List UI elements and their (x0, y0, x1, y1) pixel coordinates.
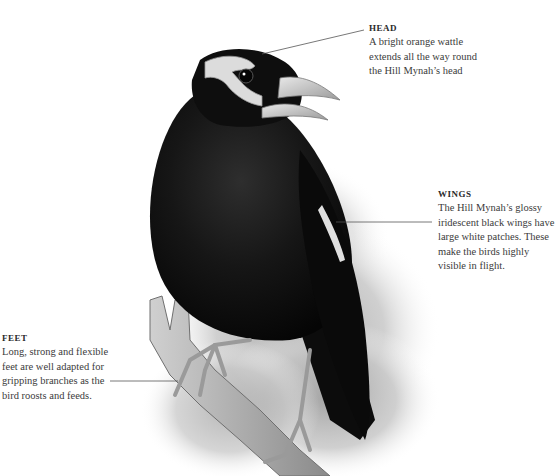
beak-upper (278, 77, 340, 100)
callout-wings-title: WINGS (438, 188, 556, 200)
eye (239, 69, 253, 83)
callout-wings: WINGS The Hill Mynah’s glossy iridescent… (438, 188, 556, 274)
callout-head-body: A bright orange wattle extends all the w… (369, 35, 549, 79)
callout-head-title: HEAD (369, 22, 549, 34)
callout-feet-title: FEET (2, 332, 132, 344)
callout-feet: FEET Long, strong and flexible feet are … (2, 332, 132, 403)
callout-head: HEAD A bright orange wattle extends all … (369, 22, 549, 79)
callout-wings-body: The Hill Mynah’s glossy iridescent black… (438, 201, 556, 274)
callout-feet-body: Long, strong and flexible feet are well … (2, 345, 132, 403)
head-leader-line (262, 30, 364, 54)
